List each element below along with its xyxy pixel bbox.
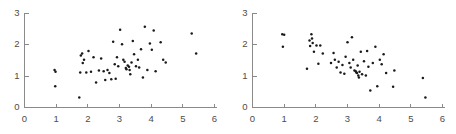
y-tick-label-1: 1 (242, 70, 247, 81)
x-tick-label-1: 1 (54, 113, 59, 124)
data-point (346, 41, 349, 44)
data-point (344, 55, 347, 58)
data-point (374, 45, 377, 48)
data-point (351, 36, 354, 39)
data-point (352, 59, 355, 62)
data-point (356, 72, 359, 75)
data-point (119, 29, 122, 32)
data-point (372, 62, 375, 64)
data-point (360, 50, 363, 53)
data-point (116, 56, 119, 59)
y-tick-label-3: 3 (242, 7, 247, 18)
data-point (195, 52, 198, 55)
data-point (144, 25, 147, 28)
data-point (282, 45, 285, 48)
data-point (162, 59, 165, 62)
data-point (81, 52, 84, 55)
data-point (135, 65, 138, 68)
data-point (164, 61, 167, 64)
data-point (319, 44, 322, 47)
data-point (283, 34, 286, 37)
data-point (190, 32, 193, 35)
y-tick-label-0: 0 (14, 101, 19, 112)
data-point (369, 89, 372, 92)
scatter-panel-left: 01234560123 (0, 0, 228, 134)
data-point (332, 52, 335, 55)
scatter-plot-svg: 01234560123 (0, 0, 228, 134)
data-point (310, 33, 313, 36)
data-point (95, 81, 98, 84)
data-point (114, 63, 117, 66)
data-point (112, 40, 115, 43)
x-tick-label-5: 5 (408, 113, 413, 124)
data-point (335, 66, 338, 69)
data-point (358, 71, 361, 74)
data-point (322, 52, 325, 55)
scatter-panel-right: 01234560123 (228, 0, 456, 134)
data-point (308, 39, 311, 42)
data-point (424, 96, 427, 99)
data-point (132, 40, 135, 43)
data-point (90, 71, 93, 74)
y-tick-label-1: 1 (14, 70, 19, 81)
x-tick-label-2: 2 (85, 113, 90, 124)
data-point (83, 59, 86, 62)
data-point (154, 70, 157, 73)
data-point (128, 69, 131, 72)
data-point (343, 72, 346, 75)
data-point (315, 44, 318, 47)
data-point (121, 43, 124, 46)
data-point (334, 59, 337, 62)
data-point (82, 62, 85, 64)
data-point (104, 79, 107, 82)
data-point (117, 65, 120, 68)
data-point (392, 86, 395, 89)
data-point (114, 77, 117, 80)
data-point (380, 63, 383, 66)
data-point (385, 72, 388, 75)
data-point (123, 61, 126, 64)
data-point (85, 71, 88, 74)
data-point (317, 62, 320, 65)
data-point (98, 69, 101, 72)
data-point (152, 29, 155, 32)
data-point (146, 69, 149, 72)
data-point (137, 59, 140, 62)
data-point (422, 77, 425, 80)
y-tick-label-2: 2 (14, 38, 19, 49)
data-points-group (53, 25, 197, 98)
data-point (100, 57, 103, 60)
x-tick-label-6: 6 (440, 113, 445, 124)
data-point (159, 41, 162, 44)
data-point (151, 49, 154, 52)
data-point (361, 73, 364, 76)
x-tick-label-4: 4 (377, 113, 382, 124)
data-point (309, 45, 312, 48)
data-point (356, 64, 359, 67)
data-point (142, 76, 145, 79)
data-point (54, 85, 57, 88)
data-point (79, 71, 82, 74)
x-tick-label-6: 6 (212, 113, 217, 124)
data-point (130, 61, 133, 64)
data-point (78, 96, 81, 99)
data-point (54, 71, 57, 74)
y-tick-label-0: 0 (242, 101, 247, 112)
data-point (128, 66, 131, 69)
data-point (379, 59, 382, 62)
x-tick-label-4: 4 (149, 113, 154, 124)
data-point (339, 71, 342, 74)
x-tick-label-3: 3 (117, 113, 122, 124)
x-tick-label-2: 2 (313, 113, 318, 124)
data-point (133, 53, 136, 56)
data-point (366, 50, 369, 53)
x-tick-label-0: 0 (22, 113, 27, 124)
data-point (149, 42, 152, 45)
data-point (138, 66, 141, 69)
scatter-plot-svg: 01234560123 (228, 0, 456, 134)
data-point (365, 74, 368, 77)
data-point (367, 66, 370, 69)
y-tick-label-2: 2 (242, 38, 247, 49)
data-point (106, 69, 109, 72)
data-point (125, 68, 128, 71)
